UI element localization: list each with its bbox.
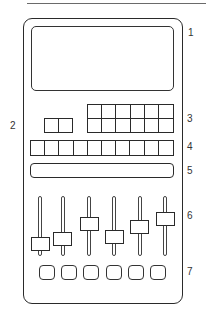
round-button[interactable] — [39, 265, 55, 280]
key-cell[interactable] — [145, 119, 159, 133]
round-button[interactable] — [150, 265, 166, 280]
key-row-10 — [30, 140, 174, 156]
key-cell[interactable] — [102, 141, 116, 155]
key-cell[interactable] — [116, 119, 130, 133]
callout-label-6: 6 — [187, 211, 193, 221]
callout-label-3: 3 — [187, 114, 193, 124]
key-cell[interactable] — [88, 105, 102, 119]
key-cell[interactable] — [59, 141, 73, 155]
key-cell[interactable] — [145, 141, 159, 155]
fader-handle[interactable] — [53, 232, 72, 246]
key-cell[interactable] — [102, 105, 116, 119]
key-cell[interactable] — [131, 105, 145, 119]
fader-slot[interactable] — [163, 196, 167, 256]
key-cell[interactable] — [159, 105, 173, 119]
round-button[interactable] — [83, 265, 99, 280]
strip-bar[interactable] — [30, 163, 174, 178]
callout-label-5: 5 — [187, 166, 193, 176]
key-cell[interactable] — [102, 119, 116, 133]
key-cell[interactable] — [74, 141, 88, 155]
key-cell[interactable] — [31, 141, 45, 155]
key-cell[interactable] — [88, 119, 102, 133]
key-cell[interactable] — [159, 141, 173, 155]
round-button[interactable] — [128, 265, 144, 280]
key-cell[interactable] — [131, 119, 145, 133]
key-cell[interactable] — [145, 105, 159, 119]
key-cell[interactable] — [45, 119, 59, 132]
key-cell[interactable] — [45, 141, 59, 155]
callout-label-2: 2 — [10, 121, 16, 131]
two-key-block — [44, 118, 73, 133]
callout-label-4: 4 — [187, 142, 193, 152]
key-cell[interactable] — [116, 141, 130, 155]
round-button[interactable] — [106, 265, 122, 280]
key-cell[interactable] — [159, 119, 173, 133]
fader-slot[interactable] — [61, 196, 65, 256]
key-cell[interactable] — [88, 141, 102, 155]
round-button[interactable] — [61, 265, 77, 280]
top-rule-line — [27, 3, 206, 4]
key-grid-6x2 — [87, 104, 174, 133]
fader-handle[interactable] — [105, 230, 124, 244]
display-screen — [31, 26, 174, 91]
fader-slot[interactable] — [112, 196, 116, 256]
fader-handle[interactable] — [156, 212, 175, 226]
fader-handle[interactable] — [130, 220, 149, 234]
key-cell[interactable] — [116, 105, 130, 119]
key-cell[interactable] — [59, 119, 73, 132]
fader-handle[interactable] — [31, 237, 50, 251]
callout-label-7: 7 — [187, 267, 193, 277]
key-cell[interactable] — [130, 141, 144, 155]
callout-label-1: 1 — [188, 28, 194, 38]
fader-handle[interactable] — [80, 217, 99, 231]
